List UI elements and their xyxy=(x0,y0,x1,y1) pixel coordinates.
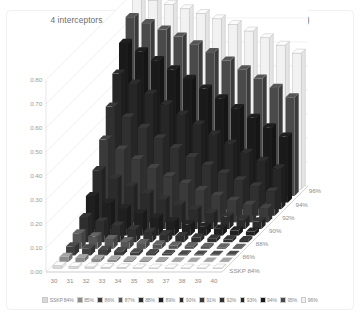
y-axis-tick-label: 0.00 xyxy=(16,268,42,275)
y-axis-tick-label: 0.60 xyxy=(16,124,42,131)
chart-title: 4 interceptors, SSKP 84-96%, 30-40 attac… xyxy=(30,14,330,26)
y-axis-tick-label: 0.10 xyxy=(16,244,42,251)
x-axis-tick-label: 37 xyxy=(159,277,173,284)
legend-item[interactable]: 85% xyxy=(77,297,94,303)
legend-label: 93% xyxy=(247,297,257,303)
legend-item[interactable]: 92% xyxy=(219,297,236,303)
y-axis-tick-label: 0.50 xyxy=(16,148,42,155)
legend-item[interactable]: 95% xyxy=(280,297,297,303)
legend-item[interactable]: 89% xyxy=(158,297,175,303)
x-axis-tick-label: 33 xyxy=(95,277,109,284)
legend-label: 94% xyxy=(267,297,277,303)
legend-swatch-icon xyxy=(240,297,246,303)
x-axis-tick-label: 32 xyxy=(79,277,93,284)
legend-swatch-icon xyxy=(199,297,205,303)
legend-swatch-icon xyxy=(260,297,266,303)
chart-frame xyxy=(6,10,354,310)
legend-item[interactable]: 93% xyxy=(240,297,257,303)
legend-swatch-icon xyxy=(42,297,48,303)
legend-item[interactable]: 86% xyxy=(97,297,114,303)
depth-axis-tick-label: 88% xyxy=(256,240,268,247)
legend-swatch-icon xyxy=(158,297,164,303)
legend-swatch-icon xyxy=(301,297,307,303)
depth-axis-tick-label: 96% xyxy=(309,187,321,194)
y-axis-tick-label: 0.20 xyxy=(16,220,42,227)
legend-swatch-icon xyxy=(97,297,103,303)
legend-swatch-icon xyxy=(118,297,124,303)
y-axis-tick-label: 0.70 xyxy=(16,100,42,107)
legend-swatch-icon xyxy=(219,297,225,303)
chart-legend: SSKP 84%85%86%87%88%89%90%91%92%93%94%95… xyxy=(10,294,350,306)
legend-swatch-icon xyxy=(138,297,144,303)
legend-item[interactable]: 96% xyxy=(301,297,318,303)
x-axis-tick-label: 31 xyxy=(63,277,77,284)
x-axis-tick-label: 35 xyxy=(127,277,141,284)
legend-swatch-icon xyxy=(77,297,83,303)
legend-item[interactable]: 90% xyxy=(179,297,196,303)
legend-label: 86% xyxy=(104,297,114,303)
x-axis-tick-label: 40 xyxy=(207,277,221,284)
legend-swatch-icon xyxy=(280,297,286,303)
y-axis-tick-label: 0.30 xyxy=(16,196,42,203)
legend-label: 89% xyxy=(165,297,175,303)
legend-item[interactable]: 87% xyxy=(118,297,135,303)
y-axis-tick-label: 0.80 xyxy=(16,76,42,83)
legend-label: 96% xyxy=(308,297,318,303)
legend-label: 95% xyxy=(287,297,297,303)
legend-item[interactable]: SSKP 84% xyxy=(42,297,73,303)
legend-label: 88% xyxy=(145,297,155,303)
legend-label: 91% xyxy=(206,297,216,303)
legend-label: SSKP 84% xyxy=(50,297,74,303)
x-axis-tick-label: 36 xyxy=(143,277,157,284)
x-axis-tick-label: 34 xyxy=(111,277,125,284)
x-axis-tick-label: 30 xyxy=(47,277,61,284)
x-axis-tick-label: 38 xyxy=(175,277,189,284)
depth-axis-tick-label: 92% xyxy=(282,214,294,221)
depth-axis-tick-label: SSKP 84% xyxy=(229,267,260,274)
legend-label: 92% xyxy=(226,297,236,303)
legend-swatch-icon xyxy=(179,297,185,303)
depth-axis-tick-label: 86% xyxy=(243,253,255,260)
legend-label: 85% xyxy=(84,297,94,303)
x-axis-tick-label: 39 xyxy=(191,277,205,284)
depth-axis-tick-label: 94% xyxy=(295,201,307,208)
legend-item[interactable]: 88% xyxy=(138,297,155,303)
legend-item[interactable]: 91% xyxy=(199,297,216,303)
y-axis-tick-label: 0.40 xyxy=(16,172,42,179)
legend-item[interactable]: 94% xyxy=(260,297,277,303)
legend-label: 87% xyxy=(125,297,135,303)
depth-axis-tick-label: 90% xyxy=(269,227,281,234)
legend-label: 90% xyxy=(186,297,196,303)
